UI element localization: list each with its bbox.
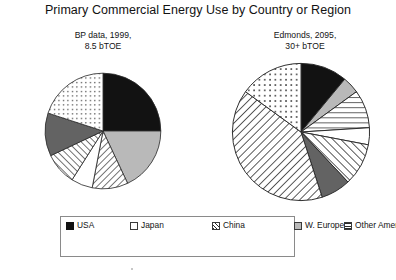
legend-item-usa: USA — [66, 221, 130, 230]
legend-item-w-europe: W. Europe — [294, 221, 344, 230]
panel-caption-left: BP data, 1999, 8.5 bTOE — [38, 30, 168, 51]
legend-item-china: China — [212, 221, 294, 230]
legend-swatch-w-europe — [294, 222, 302, 230]
legend-label-other-amer: Other Amer. — [355, 221, 396, 230]
legend-label-japan: Japan — [141, 221, 164, 230]
pie-chart-left — [44, 72, 162, 190]
panel-caption-left-line1: BP data, 1999, — [38, 30, 168, 41]
legend-grid: USAJapanChinaW. EuropeOther Amer.Austral… — [66, 220, 294, 232]
pie-right-svg — [231, 62, 371, 202]
panel-caption-right-line1: Edmonds, 2095, — [240, 30, 370, 41]
legend-swatch-other-amer — [344, 222, 352, 230]
panel-caption-right-line2: 30+ bTOE — [240, 41, 370, 52]
panel-caption-right: Edmonds, 2095, 30+ bTOE — [240, 30, 370, 51]
pie-left-slices — [45, 73, 161, 189]
page-title: Primary Commercial Energy Use by Country… — [0, 3, 396, 17]
legend-swatch-japan — [130, 222, 138, 230]
legend-item-japan: Japan — [130, 221, 212, 230]
pie-chart-right — [231, 62, 371, 202]
legend: USAJapanChinaW. EuropeOther Amer.Austral… — [60, 216, 295, 257]
legend-swatch-usa — [66, 222, 74, 230]
scan-artifact-speck — [131, 268, 133, 270]
legend-item-other-amer: Other Amer. — [344, 221, 396, 230]
legend-swatch-china — [212, 222, 220, 230]
legend-label-usa: USA — [77, 221, 94, 230]
pie-slice-usa — [103, 73, 161, 131]
legend-label-w-europe: W. Europe — [305, 221, 344, 230]
figure-root: Primary Commercial Energy Use by Country… — [0, 0, 396, 280]
legend-label-china: China — [223, 221, 245, 230]
pie-left-svg — [44, 72, 162, 190]
panel-caption-left-line2: 8.5 bTOE — [38, 41, 168, 52]
pie-right-slices — [232, 63, 369, 200]
